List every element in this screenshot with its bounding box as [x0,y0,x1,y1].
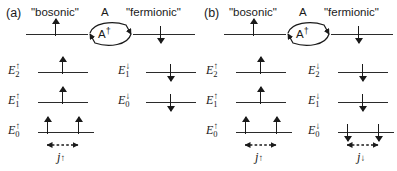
panel-b-left-level-0-spin-up-icon-2 [276,117,277,134]
panel-a-left-level-0-spin-up-icon-2 [78,117,79,134]
panel-a-left-level-2-line [38,72,88,73]
panel-a-coupling-label: j↑ [57,150,65,165]
panel-b-left-level-2-label: E2↑ [206,64,222,77]
panel-b-right-level-0-spin-down-icon-1 [347,124,348,141]
panel-b-left-level-2-spin-up-icon [260,57,261,74]
panel-b-left-level-0-label: E0↑ [206,124,222,137]
panel-b-left-level-1-label: E1↑ [206,94,222,107]
panel-b-loop-operator-dagger: A† [296,28,309,40]
panel-a-right-level-1-line [146,72,196,73]
panel-a-left-level-1-line [38,102,88,103]
panel-a-right-level-0-spin-down-icon [170,94,171,111]
panel-b-right-level-1-label: E1↓ [308,94,324,107]
panel-a-left-level-2-label: E2↑ [8,64,24,77]
panel-b-right-level-0-label: E0↓ [308,124,324,137]
panel-a-left-level-2-spin-up-icon [62,57,63,74]
panel-b: (b) "bosonic" A "fermionic" A† E2↑ [198,0,397,171]
panel-a: (a) "bosonic" A "fermionic" A† E2↑ [0,0,199,171]
panel-b-left-level-1-spin-up-icon [260,87,261,104]
panel-b-left-level-2-line [236,72,286,73]
panel-a-right-level-1-spin-down-icon [170,64,171,81]
panel-b-right-level-2-line [338,72,388,73]
panel-b-left-coupling-label: j↑ [255,150,263,165]
panel-a-right-level-0-label: E0↓ [118,94,134,107]
panel-a-left-level-1-spin-up-icon [62,87,63,104]
panel-a-loop-operator-dagger: A† [98,28,111,40]
figure-root: (a) "bosonic" A "fermionic" A† E2↑ [0,0,397,171]
panel-b-right-level-1-spin-down-icon [362,94,363,111]
panel-a-left-level-0-spin-up-icon-1 [47,117,48,134]
panel-b-right-level-0-spin-down-icon-2 [378,124,379,141]
panel-a-left-level-1-label: E1↑ [8,94,24,107]
panel-b-left-level-0-spin-up-icon-1 [245,117,246,134]
panel-b-right-level-2-label: E2↓ [308,64,324,77]
panel-b-left-level-1-line [236,102,286,103]
panel-a-right-level-1-label: E1↓ [118,64,134,77]
panel-b-right-level-2-spin-down-icon [362,64,363,81]
panel-b-right-coupling-label: j↓ [357,150,365,165]
panel-a-right-level-0-line [146,102,196,103]
panel-b-right-level-1-line [338,102,388,103]
panel-a-left-level-0-label: E0↑ [8,124,24,137]
